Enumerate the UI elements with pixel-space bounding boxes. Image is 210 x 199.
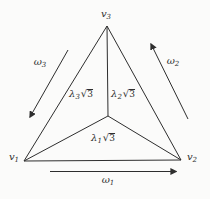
- omega1-subscript: 1: [110, 179, 114, 187]
- region-label-lambda3: λ3√3: [69, 89, 93, 101]
- vertex-label-v2: v2: [187, 152, 197, 164]
- region-label-lambda2: λ2√3: [111, 89, 135, 101]
- flow-label-omega3: ω3: [34, 57, 47, 69]
- lambda1-subscript: 1: [97, 137, 101, 145]
- lambda3-radicand: 3: [87, 89, 93, 100]
- omega2-subscript: 2: [175, 60, 179, 68]
- vertex-label-v1: v1: [9, 152, 19, 164]
- cevian-to-v3: [107, 26, 108, 116]
- triangle-flow-diagram: v3 v1 v2 λ3√3 λ2√3 λ1√3 ω3 ω2 ω1: [0, 0, 210, 199]
- flow-label-omega2: ω2: [167, 56, 180, 68]
- omega2-base: ω: [167, 55, 175, 66]
- triangle-edge-bottom: [24, 160, 181, 161]
- lambda1-radicand: 3: [109, 133, 115, 144]
- v3-subscript: 3: [107, 13, 111, 21]
- v2-subscript: 2: [193, 156, 197, 164]
- v1-subscript: 1: [15, 156, 19, 164]
- vertex-label-v3: v3: [101, 9, 111, 21]
- region-label-lambda1: λ1√3: [91, 133, 115, 145]
- lambda2-subscript: 2: [117, 93, 121, 101]
- diagram-canvas: [0, 0, 210, 199]
- omega1-base: ω: [102, 174, 110, 185]
- omega3-subscript: 3: [42, 61, 46, 69]
- omega3-base: ω: [34, 56, 42, 67]
- flow-label-omega1: ω1: [102, 175, 115, 187]
- cevian-to-v2: [108, 116, 181, 160]
- lambda2-radicand: 3: [129, 89, 135, 100]
- lambda3-subscript: 3: [75, 93, 79, 101]
